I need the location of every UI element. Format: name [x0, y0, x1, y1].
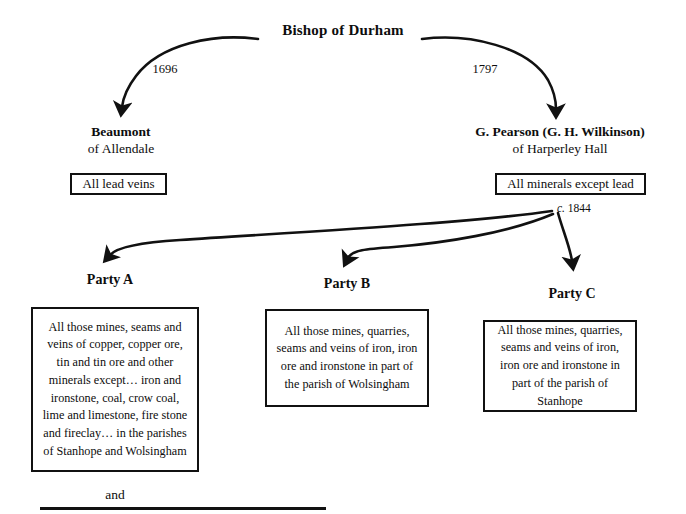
split-date-prefix: c.	[557, 202, 565, 214]
clause-box-party-c-text: All those mines, quarries, seams and vei…	[485, 316, 635, 416]
clause-box-party-a: All those mines, seams and veins of copp…	[31, 307, 199, 472]
node-beaumont-seat: of Allendale	[26, 141, 216, 157]
split-date-year: 1844	[568, 202, 591, 214]
arrow-split-to-party-c	[558, 213, 572, 261]
clause-box-party-c: All those mines, quarries, seams and vei…	[483, 320, 637, 412]
clause-box-party-b: All those mines, quarries, seams and vei…	[265, 309, 429, 407]
clause-box-party-a-text: All those mines, seams and veins of copp…	[33, 313, 197, 467]
edge-label-1797: 1797	[455, 62, 515, 77]
clause-box-party-b-text: All those mines, quarries, seams and vei…	[267, 317, 427, 400]
diagram-canvas: Bishop of Durham 1696 1797 Beaumont of A…	[0, 0, 686, 514]
conjunction-and: and	[31, 487, 199, 503]
node-party-c-label: Party C	[487, 286, 657, 302]
arrow-split-to-party-a	[110, 211, 552, 255]
rights-box-pearson: All minerals except lead	[495, 173, 646, 195]
rights-box-beaumont-text: All lead veins	[75, 176, 161, 192]
node-party-b-label: Party B	[262, 276, 432, 292]
node-pearson-seat: of Harperley Hall	[440, 141, 680, 157]
split-date-label: c. 1844	[557, 202, 637, 214]
page-title: Bishop of Durham	[0, 22, 686, 39]
node-beaumont-name: Beaumont	[26, 124, 216, 140]
rights-box-beaumont: All lead veins	[70, 173, 167, 195]
node-party-a-label: Party A	[20, 272, 200, 288]
arrow-split-to-party-b	[348, 214, 553, 258]
node-pearson-name: G. Pearson (G. H. Wilkinson)	[440, 124, 680, 140]
edge-label-1696: 1696	[135, 62, 195, 77]
truncated-box-top-edge	[40, 507, 326, 510]
rights-box-pearson-text: All minerals except lead	[500, 176, 641, 192]
